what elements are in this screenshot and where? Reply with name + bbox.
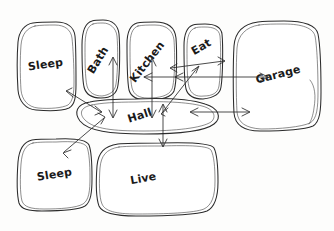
room-garage[interactable]: Garage — [233, 21, 321, 131]
room-sleep-bottom[interactable]: Sleep — [17, 139, 92, 211]
room-live[interactable]: Live — [96, 143, 218, 216]
room-outline-live — [96, 143, 218, 216]
room-outline-eat — [184, 24, 223, 99]
room-eat[interactable]: Eat — [184, 24, 223, 99]
room-hall[interactable]: Hall — [77, 99, 219, 134]
room-adjacency-sketch: Sleep Bath Kitchen Eat — [0, 0, 334, 231]
rooms-layer: Sleep Bath Kitchen Eat — [17, 20, 321, 216]
room-sleep-top[interactable]: Sleep — [17, 22, 76, 111]
diagram-canvas: Sleep Bath Kitchen Eat — [0, 0, 334, 231]
